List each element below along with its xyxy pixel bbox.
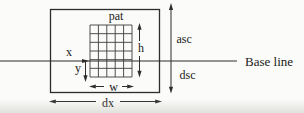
- w-left-arrowhead-icon: [89, 84, 96, 88]
- baseline-label: Base line: [245, 54, 293, 69]
- origin-y-label: y: [75, 61, 81, 75]
- ascent-label: asc: [177, 32, 192, 46]
- pattern-grid: [90, 25, 132, 77]
- h-up-arrowhead-icon: [137, 23, 141, 30]
- y-arrowhead-icon: [83, 75, 87, 82]
- w-right-arrowhead-icon: [127, 84, 134, 88]
- glyph-metrics-diagram: pat x y h w asc dsc dx Base line: [0, 0, 304, 113]
- advance-label: dx: [102, 96, 114, 110]
- descent-label: dsc: [180, 68, 196, 82]
- height-label: h: [138, 41, 144, 55]
- h-down-arrowhead-icon: [137, 71, 141, 78]
- origin-x-label: x: [66, 45, 72, 59]
- dsc-down-arrowhead-icon: [169, 87, 173, 94]
- width-label: w: [109, 80, 118, 94]
- dx-right-arrowhead-icon: [155, 99, 162, 103]
- asc-up-arrowhead-icon: [169, 3, 173, 10]
- pattern-label: pat: [109, 9, 124, 23]
- dx-left-arrowhead-icon: [49, 99, 56, 103]
- diagram-canvas: pat x y h w asc dsc dx Base line: [0, 0, 304, 113]
